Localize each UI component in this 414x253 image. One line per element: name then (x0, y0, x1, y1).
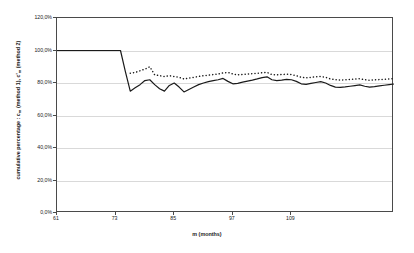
x-tick-label: 109 (286, 215, 295, 221)
series-line-method-1 (57, 51, 394, 92)
y-tick-label: 120,0% (14, 14, 52, 20)
x-tick-mark (173, 212, 174, 215)
x-tick-mark (290, 212, 291, 215)
y-tick-label: 0,0% (14, 209, 52, 215)
x-tick-mark (56, 212, 57, 215)
x-axis-title: m (months) (0, 231, 414, 237)
x-tick-mark (232, 212, 233, 215)
x-tick-label: 85 (170, 215, 176, 221)
x-tick-mark (115, 212, 116, 215)
chart-container: 120,0%100,0%80,0%60,0%40,0%20,0%0,0% cum… (0, 0, 414, 253)
data-series-layer (57, 18, 394, 213)
x-tick-label: 61 (53, 215, 59, 221)
x-tick-label: 97 (229, 215, 235, 221)
plot-area (56, 17, 393, 212)
x-tick-label: 73 (112, 215, 118, 221)
y-axis-title: cumulative percentage : cm (method 1), c… (15, 25, 21, 195)
